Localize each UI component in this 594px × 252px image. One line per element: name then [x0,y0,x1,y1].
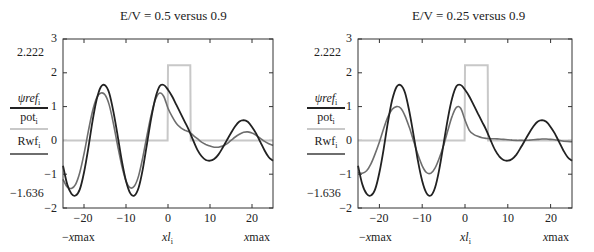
marker-bottom-label: −1.636 [10,186,44,201]
legend-line-rwf [307,153,345,155]
x-label-max: xmax [543,230,569,245]
legend-label-psiref: ψrefi [10,91,48,107]
legend-line-psiref [10,107,48,109]
y-tick: −1 [332,167,352,182]
y-tick: 2 [332,65,352,80]
x-tick: 0 [450,211,480,226]
y-tick: 2 [37,65,57,80]
legend-label-rwf: Rwfi [307,134,345,150]
x-tick: 20 [536,211,566,226]
legend-label-pot: poti [307,110,345,126]
chart-panel-left: E/V = 0.5 versus 0.9 2.222 −1.636 3 2 1 … [0,0,297,252]
marker-bottom-label: −1.636 [307,186,341,201]
x-tick: 20 [237,211,267,226]
x-label-center: xli [162,230,173,246]
x-label-min: −xmax [359,230,392,245]
legend-line-pot [307,128,345,130]
chart-panel-right: E/V = 0.25 versus 0.9 2.222 −1.636 3 2 1… [297,0,594,252]
x-label-center: xli [460,230,471,246]
x-label-max: xmax [244,230,270,245]
y-tick: 3 [332,31,352,46]
x-tick: 10 [493,211,523,226]
y-tick: 3 [37,31,57,46]
x-tick: −20 [364,211,394,226]
y-tick: −2 [332,201,352,216]
x-tick: −20 [68,211,98,226]
y-tick: −2 [37,201,57,216]
x-label-min: −xmax [62,230,95,245]
legend-line-psiref [307,107,345,109]
legend-line-rwf [10,153,48,155]
marker-top-label: 2.222 [314,45,341,60]
legend-line-pot [10,128,48,130]
y-tick: −1 [37,167,57,182]
marker-top-label: 2.222 [17,45,44,60]
x-tick: −10 [407,211,437,226]
x-tick: −10 [111,211,141,226]
legend-label-pot: poti [10,110,48,126]
x-tick: 10 [195,211,225,226]
legend-label-rwf: Rwfi [10,134,48,150]
x-tick: 0 [153,211,183,226]
legend-label-psiref: ψrefi [307,91,345,107]
